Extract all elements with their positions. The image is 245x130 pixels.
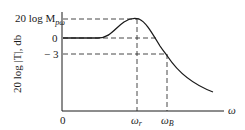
origin-label: 0 (60, 114, 66, 126)
omega-r-label: ωr (131, 114, 143, 128)
y-axis-title: 20 log |T|, db (11, 34, 23, 93)
minus3-label: − 3 (44, 48, 59, 60)
omega-b-label: ωB (161, 114, 174, 128)
x-axis-title: ω (228, 104, 236, 116)
peak-label: 20 log Mpω (15, 12, 65, 27)
magnitude-curve (63, 18, 213, 92)
bode-magnitude-diagram: 20 log Mpω 0 − 3 20 log |T|, db 0 ωr ωB … (0, 0, 245, 130)
zero-label: 0 (52, 32, 58, 44)
